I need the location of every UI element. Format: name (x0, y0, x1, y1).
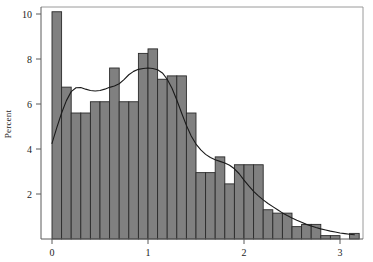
histogram-bar (52, 12, 62, 239)
y-tick-label: 6 (27, 99, 32, 110)
x-tick-label: 2 (242, 247, 247, 258)
histogram-bar (302, 224, 312, 239)
histogram-bar (234, 165, 244, 239)
y-tick-label: 2 (27, 189, 32, 200)
histogram-bar (81, 113, 91, 239)
histogram-chart: 246810 0123 Percent (0, 0, 373, 262)
histogram-bar (292, 227, 302, 239)
histogram-bar (129, 102, 139, 239)
x-tick-label: 3 (338, 247, 343, 258)
histogram-bar (254, 165, 264, 239)
histogram-bar (177, 76, 187, 239)
histogram-bar (138, 53, 148, 239)
histogram-bar (100, 102, 110, 239)
histogram-bar (90, 102, 100, 239)
histogram-bar (263, 210, 273, 239)
histogram-figure: 246810 0123 Percent (0, 0, 373, 262)
y-axis-ticks: 246810 (22, 9, 41, 200)
histogram-bar (167, 76, 177, 239)
histogram-bar (206, 173, 216, 239)
x-tick-label: 0 (50, 247, 55, 258)
histogram-bar (148, 49, 158, 239)
y-tick-label: 8 (27, 54, 32, 65)
histogram-bar (225, 184, 235, 239)
y-axis-title: Percent (3, 110, 13, 139)
x-tick-label: 1 (146, 247, 151, 258)
histogram-bar (215, 157, 225, 239)
y-tick-label: 10 (22, 9, 32, 20)
histogram-bar (158, 79, 168, 239)
histogram-bar (273, 213, 283, 239)
histogram-bar (196, 173, 206, 239)
histogram-bar (244, 165, 254, 239)
histogram-bar (186, 113, 196, 239)
histogram-bar (71, 113, 81, 239)
histogram-bar (119, 102, 129, 239)
y-tick-label: 4 (27, 144, 32, 155)
x-axis-ticks: 0123 (50, 239, 343, 258)
histogram-bar (110, 68, 120, 239)
